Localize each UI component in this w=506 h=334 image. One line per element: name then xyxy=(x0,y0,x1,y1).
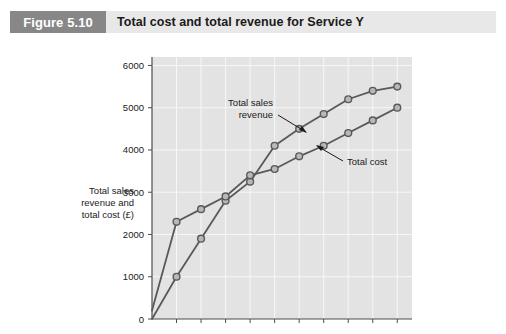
line-chart: 0100020003000400050006000 12345678910 To… xyxy=(10,33,496,324)
figure-container: Figure 5.10 Total cost and total revenue… xyxy=(0,0,506,334)
data-point-marker xyxy=(320,111,327,118)
data-point-marker xyxy=(173,273,180,280)
annotation-cost-label: Total cost xyxy=(347,156,387,167)
data-point-marker xyxy=(394,83,401,90)
x-axis-ticks: 12345678910 xyxy=(174,319,403,324)
y-tick-label: 2000 xyxy=(123,229,144,240)
data-point-marker xyxy=(271,166,278,173)
data-point-marker xyxy=(345,96,352,103)
annotation-revenue-line2: revenue xyxy=(239,109,273,120)
y-tick-label: 5000 xyxy=(123,102,144,113)
y-axis-title-line2: revenue and xyxy=(81,197,134,208)
y-tick-label: 0 xyxy=(139,314,144,325)
y-tick-label: 1000 xyxy=(123,271,144,282)
y-tick-label: 4000 xyxy=(123,144,144,155)
data-point-marker xyxy=(198,206,205,213)
y-axis-title: Total sales revenue and total cost (£) xyxy=(81,185,134,220)
data-point-marker xyxy=(271,142,278,149)
figure-title: Total cost and total revenue for Service… xyxy=(106,11,496,33)
y-axis-title-line1: Total sales xyxy=(89,185,134,196)
data-point-marker xyxy=(296,153,303,160)
data-point-marker xyxy=(345,130,352,137)
data-point-marker xyxy=(394,104,401,111)
data-point-marker xyxy=(369,87,376,94)
y-tick-label: 6000 xyxy=(123,60,144,71)
chart-container: 0100020003000400050006000 12345678910 To… xyxy=(10,33,496,324)
figure-number-badge: Figure 5.10 xyxy=(10,11,106,33)
data-point-marker xyxy=(369,117,376,124)
data-point-marker xyxy=(173,218,180,225)
y-axis-title-line3: total cost (£) xyxy=(82,209,134,220)
figure-header: Figure 5.10 Total cost and total revenue… xyxy=(10,11,496,33)
data-point-marker xyxy=(222,193,229,200)
annotation-revenue-line1: Total sales xyxy=(228,97,273,108)
data-point-marker xyxy=(198,235,205,242)
data-point-marker xyxy=(247,172,254,179)
